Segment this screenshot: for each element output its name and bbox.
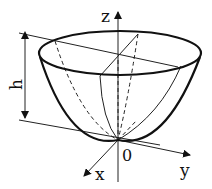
visible-meridians <box>100 66 181 140</box>
z-axis-label: z <box>101 6 110 26</box>
top-rim-ellipse <box>39 31 201 75</box>
x-axis-label: x <box>95 164 105 184</box>
height-label: h <box>6 79 26 90</box>
origin-label: 0 <box>122 146 132 165</box>
paraboloid-diagram: z y x 0 h <box>0 0 212 189</box>
height-reference-lines <box>19 33 178 145</box>
y-axis-label: y <box>179 160 190 180</box>
